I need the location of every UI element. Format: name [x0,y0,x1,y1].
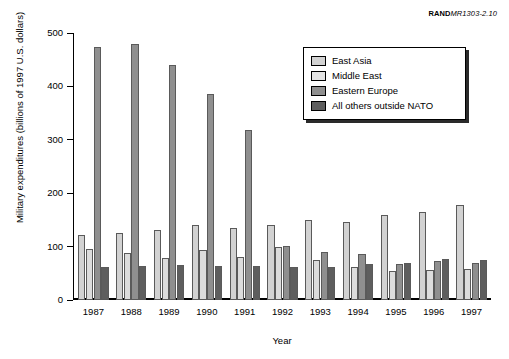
chart-legend: East AsiaMiddle EastEastern EuropeAll ot… [303,47,466,120]
x-tick-label-1995: 1995 [377,306,415,317]
bar [86,249,93,300]
y-tick-label: 100 [3,241,63,252]
y-tick-label: 500 [3,27,63,38]
bar [358,254,365,300]
y-tick-mark [67,246,73,247]
bar [94,47,101,300]
x-tick-label-1987: 1987 [75,306,113,317]
bar [396,264,403,300]
x-tick-label-1993: 1993 [301,306,339,317]
legend-label: East Asia [332,55,372,66]
bar [381,215,388,300]
bar [230,228,237,300]
y-tick-mark [67,193,73,194]
bar [366,264,373,300]
x-tick-label-1990: 1990 [188,306,226,317]
legend-item-east-asia: East Asia [311,53,458,68]
bar [253,266,260,300]
bar [442,259,449,300]
y-tick-label: 0 [3,294,63,305]
bar [328,267,335,300]
bar [162,258,169,300]
bar [305,220,312,300]
y-tick-label: 200 [3,187,63,198]
y-tick-mark [67,139,73,140]
bar [351,267,358,300]
x-tick-label-1994: 1994 [339,306,377,317]
y-axis-title: Military expenditures (billions of 1997 … [14,0,25,328]
bar [199,250,206,300]
y-tick-label: 300 [3,134,63,145]
bar [313,260,320,300]
bar [169,65,176,300]
x-tick-label-1989: 1989 [150,306,188,317]
bar [237,257,244,300]
bar [290,267,297,300]
bar [177,265,184,300]
y-tick-mark [67,86,73,87]
legend-item-middle-east: Middle East [311,68,458,83]
x-tick-label-1988: 1988 [112,306,150,317]
y-tick-label: 400 [3,80,63,91]
bar [245,130,252,300]
legend-swatch-icon [311,86,326,96]
bar [389,271,396,300]
bar [139,266,146,300]
legend-label: Eastern Europe [332,85,398,96]
x-tick-label-1992: 1992 [264,306,302,317]
bar [419,212,426,300]
y-tick-mark [67,33,73,34]
source-credit: RANDMR1303-2.10 [428,9,497,18]
x-axis-title: Year [73,335,491,346]
bar [283,246,290,300]
bar [343,222,350,300]
bar [131,44,138,300]
legend-item-all-others-outside-nato: All others outside NATO [311,98,458,113]
bar [207,94,214,300]
legend-swatch-icon [311,71,326,81]
legend-swatch-icon [311,101,326,111]
bar [321,252,328,300]
bar [192,225,199,300]
bar [456,205,463,300]
bar [267,225,274,300]
x-tick-label-1996: 1996 [415,306,453,317]
bar [480,260,487,300]
bar [434,261,441,300]
bar [154,230,161,300]
bar [116,233,123,300]
y-tick-mark [67,300,73,301]
bar [426,270,433,300]
x-tick-label-1997: 1997 [453,306,491,317]
credit-org: RAND [428,9,450,18]
bar [215,266,222,300]
bar [472,263,479,300]
x-tick-label-1991: 1991 [226,306,264,317]
bar [464,269,471,301]
chart-figure: RANDMR1303-2.10 Military expenditures (b… [0,0,509,359]
bar [275,247,282,300]
legend-item-eastern-europe: Eastern Europe [311,83,458,98]
bar [124,253,131,300]
legend-swatch-icon [311,56,326,66]
credit-doc-id: MR1303-2.10 [450,9,497,18]
legend-label: All others outside NATO [332,100,433,111]
bar [101,267,108,300]
legend-label: Middle East [332,70,382,81]
bar [78,235,85,300]
bar [404,263,411,300]
